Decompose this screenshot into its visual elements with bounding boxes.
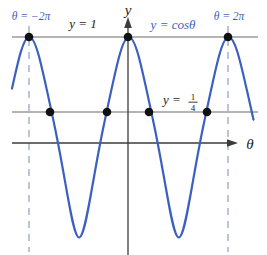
cosine-curve: [12, 37, 254, 238]
point-max-zero: [124, 33, 133, 42]
y-axis-arrowhead: [124, 17, 132, 28]
plot-canvas: y θ y = 1 y = cosθ y = 1 4 θ = −2π θ = 2…: [0, 0, 267, 255]
label-theta-two-pi: θ = 2π: [214, 10, 246, 22]
label-quarter-lhs: y =: [161, 92, 181, 107]
label-quarter-numerator: 1: [191, 92, 196, 102]
label-y-equals-1: y = 1: [67, 16, 97, 31]
label-y-equals-cos-theta: y = cosθ: [149, 17, 196, 32]
label-theta-minus-two-pi: θ = −2π: [12, 10, 52, 22]
y-axis-label: y: [123, 2, 132, 18]
point-max-minus-two-pi: [25, 33, 34, 42]
label-y-equals-one-quarter: y = 1 4: [161, 92, 198, 113]
point-max-two-pi: [224, 33, 233, 42]
theta-axis-arrowhead: [227, 139, 238, 147]
point-quarter-intersection-4: [203, 108, 212, 117]
cosine-graph-figure: y θ y = 1 y = cosθ y = 1 4 θ = −2π θ = 2…: [0, 0, 267, 255]
label-quarter-denominator: 4: [191, 103, 196, 113]
point-quarter-intersection-1: [46, 108, 55, 117]
point-quarter-intersection-2: [103, 108, 112, 117]
point-quarter-intersection-3: [145, 108, 154, 117]
theta-axis-label: θ: [246, 136, 254, 152]
